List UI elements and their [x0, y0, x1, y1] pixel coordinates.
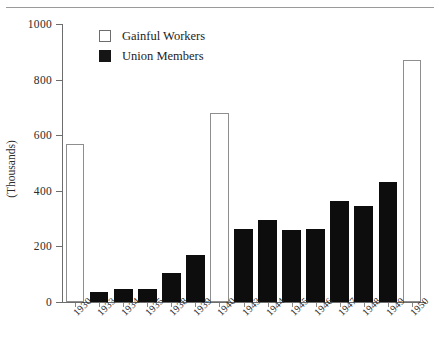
y-axis-tick-label: 0 [4, 296, 52, 308]
y-axis-tick-label: 200 [4, 240, 52, 252]
plot-area: 02004006008001000 (Thousands) 1930193319… [0, 0, 439, 344]
y-axis-tick-label: 800 [4, 74, 52, 86]
bar-1939 [186, 255, 205, 302]
bar-1943 [234, 229, 253, 302]
y-axis-line [62, 24, 63, 303]
y-axis-tick [56, 24, 63, 25]
bar-1947 [330, 201, 349, 302]
bar-1930 [66, 144, 85, 302]
y-axis-tick-label: 1000 [4, 18, 52, 30]
chart-legend: Gainful Workers Union Members [99, 27, 205, 67]
y-axis-tick [56, 246, 63, 247]
chart-figure: 02004006008001000 (Thousands) 1930193319… [0, 0, 439, 344]
bar-1950 [403, 60, 422, 302]
bar-1946 [306, 229, 325, 302]
legend-item-union-members: Union Members [99, 47, 205, 65]
y-axis-tick [56, 80, 63, 81]
bar-1940 [210, 113, 229, 302]
bar-1945 [282, 230, 301, 302]
legend-label: Union Members [122, 49, 204, 64]
y-axis-tick [56, 191, 63, 192]
legend-label: Gainful Workers [122, 29, 205, 44]
y-axis-tick [56, 135, 63, 136]
legend-swatch-open-square-icon [99, 30, 111, 42]
bar-1949 [379, 182, 398, 302]
legend-swatch-filled-square-icon [99, 50, 111, 62]
bar-1948 [354, 206, 373, 302]
y-axis-tick [56, 302, 63, 303]
y-axis-label: (Thousands) [5, 114, 17, 224]
bar-1944 [258, 220, 277, 302]
legend-item-gainful-workers: Gainful Workers [99, 27, 205, 45]
